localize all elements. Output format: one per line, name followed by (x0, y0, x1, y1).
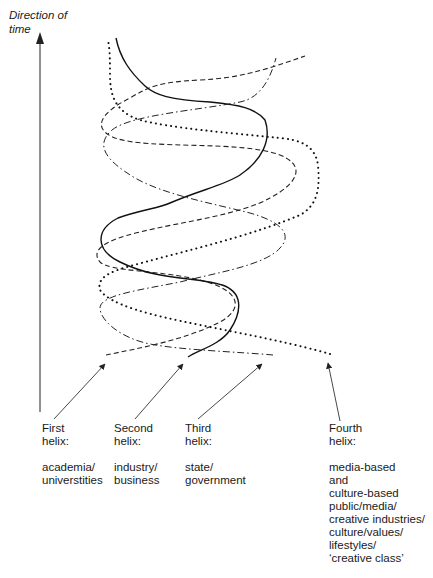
second-helix-title-line1: Second (114, 422, 159, 435)
second-helix-label: Second helix: industry/ business (114, 422, 159, 487)
fourth-helix-desc-line: creative industries/ (329, 513, 425, 526)
third-helix-title-line2: helix: (185, 435, 246, 448)
fourth-helix-desc-line: public/media/ (329, 500, 425, 513)
second-helix-description: industry/ business (114, 461, 159, 487)
fourth-helix-desc-line: lifestyles/ (329, 539, 425, 552)
fourth-helix-label: Fourth helix: media-based and culture-ba… (329, 422, 425, 565)
third-helix-label: Third helix: state/ government (185, 422, 246, 487)
fourth-helix-desc-line: media-based (329, 461, 425, 474)
second-helix-desc-line: business (114, 474, 159, 487)
third-helix-desc-line: government (185, 474, 246, 487)
first-helix-title-line1: First (42, 422, 103, 435)
fourth-helix-description: media-based and culture-based public/med… (329, 461, 425, 565)
second-helix-pointer-arrow (135, 364, 183, 419)
fourth-helix-desc-line: culture-based (329, 487, 425, 500)
third-helix-title-line1: Third (185, 422, 246, 435)
first-helix-title-line2: helix: (42, 435, 103, 448)
fourth-helix-desc-line: ‘creative class’ (329, 552, 425, 565)
fourth-helix-title-line1: Fourth (329, 422, 425, 435)
fourth-helix-desc-line: and (329, 474, 425, 487)
first-helix-label: First helix: academia/ universtities (42, 422, 103, 487)
first-helix-desc-line: academia/ (42, 461, 103, 474)
fourth-helix-desc-line: culture/values/ (329, 526, 425, 539)
third-helix-pointer-arrow (198, 364, 262, 419)
second-helix-desc-line: industry/ (114, 461, 159, 474)
second-helix-title-line2: helix: (114, 435, 159, 448)
first-helix-desc-line: universtities (42, 474, 103, 487)
fourth-helix-pointer-arrow (328, 363, 340, 421)
time-axis-arrow (36, 32, 44, 412)
third-helix-curve (100, 58, 285, 355)
first-helix-description: academia/ universtities (42, 461, 103, 487)
second-helix-curve (101, 38, 267, 357)
first-helix-pointer-arrow (54, 364, 105, 419)
third-helix-description: state/ government (185, 461, 246, 487)
fourth-helix-curve (99, 40, 330, 354)
third-helix-desc-line: state/ (185, 461, 246, 474)
fourth-helix-title-line2: helix: (329, 435, 425, 448)
